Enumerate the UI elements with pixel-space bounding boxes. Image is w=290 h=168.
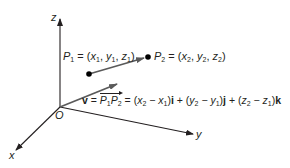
y-axis (60, 107, 193, 134)
p1-equals: = (77, 50, 83, 62)
term-y-b-sub: 1 (216, 100, 220, 107)
z-axis-label: z (51, 12, 57, 23)
point-p1-label: P1 = (x1, y1, z1) (63, 51, 135, 62)
unit-i: i (171, 94, 174, 106)
term-x-b-sub: 1 (164, 100, 168, 107)
origin-label: O (55, 110, 64, 121)
p2-y-sub: 2 (203, 56, 207, 63)
diagram-graphics (0, 0, 290, 168)
point-p2-dot (145, 54, 151, 60)
p1-x-sub: 1 (96, 56, 100, 63)
p2-equals: = (168, 50, 174, 62)
term-y-a-sub: 2 (195, 100, 199, 107)
vector-equation: v = P1P2 = (x2 − x1)i + (y2 − y1)j + (z2… (82, 95, 281, 106)
eq-p2: P (111, 94, 118, 106)
p1-y-sub: 1 (112, 56, 116, 63)
p2-sub: 2 (161, 56, 165, 63)
eq-equals: = (91, 94, 97, 106)
point-p2-label: P2 = (x2, y2, z2) (154, 51, 226, 62)
x-axis (16, 107, 60, 150)
vector-v-symbol: v (82, 94, 88, 106)
term-x-a-sub: 2 (142, 100, 146, 107)
term-z-b-sub: 1 (268, 100, 272, 107)
term-z-a-sub: 2 (247, 100, 251, 107)
p1-sub: 1 (70, 56, 74, 63)
vector-diagram: z x y O P1 = (x1, y1, z1) P2 = (x2, y2, … (0, 0, 290, 168)
unit-j: j (223, 94, 226, 106)
p2-z-sub: 2 (218, 56, 222, 63)
y-axis-label: y (196, 129, 202, 140)
eq-p2-sub: 2 (118, 100, 122, 107)
unit-k: k (275, 94, 281, 106)
point-p1-dot (86, 71, 92, 77)
p1-z-sub: 1 (127, 56, 131, 63)
p2-x-sub: 2 (187, 56, 191, 63)
x-axis-label: x (9, 150, 15, 161)
eq-p1: P (100, 94, 107, 106)
vector-p1p2-overline: P1P2 (100, 95, 122, 106)
